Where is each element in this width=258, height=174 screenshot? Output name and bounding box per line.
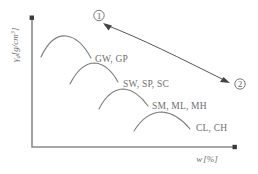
trend-arrow-head-lower-right <box>220 77 230 83</box>
x-axis-unit: [%] <box>203 154 218 164</box>
x-axis-cap-marker <box>233 145 237 149</box>
curve-sw-sp-sc <box>70 63 118 84</box>
x-axis-symbol: w <box>196 154 202 164</box>
curve-label-cl-ch: CL, CH <box>196 123 227 133</box>
y-axis-label-text: γd[g/cm3] <box>9 27 21 62</box>
y-axis-unit-open: [g/cm <box>10 34 20 55</box>
curve-cl-ch <box>134 112 190 131</box>
callout-1: 1 <box>94 10 104 20</box>
trend-arrow-curve <box>106 25 226 81</box>
trend-arrow-group <box>103 23 230 83</box>
curve-label-sm-ml-mh: SM, ML, MH <box>152 101 207 111</box>
curve-label-sw-sp-sc: SW, SP, SC <box>123 79 169 89</box>
y-axis-label: γd[g/cm3] <box>9 27 21 62</box>
callout-2-number: 2 <box>238 79 242 89</box>
y-axis-unit-close: ] <box>10 27 20 32</box>
curve-gw-gp <box>41 36 91 58</box>
x-axis-label: w[%] <box>196 154 218 164</box>
figure-container: 1 2 GW, GP SW, SP, SC SM, ML, MH CL, CH … <box>0 0 258 174</box>
callout-2: 2 <box>235 79 245 89</box>
callout-1-number: 1 <box>97 11 101 21</box>
curve-label-gw-gp: GW, GP <box>95 54 128 64</box>
trend-arrow-head-upper-left <box>103 23 112 31</box>
curve-sm-ml-mh <box>99 89 148 109</box>
compaction-curve-figure: 1 2 GW, GP SW, SP, SC SM, ML, MH CL, CH … <box>0 0 258 174</box>
y-axis-cap-marker <box>30 16 34 20</box>
